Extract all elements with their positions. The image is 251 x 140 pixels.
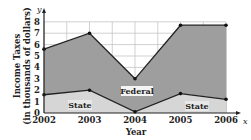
federal-label: Federal bbox=[120, 86, 153, 96]
y-tick-label: 5 bbox=[34, 51, 40, 61]
y-axis-title: Income Taxes (in thousands of dollars) bbox=[12, 7, 32, 125]
y-tick-label: 6 bbox=[34, 40, 40, 50]
state-label-left: State bbox=[68, 100, 91, 110]
y-tick-label: 7 bbox=[34, 28, 40, 38]
x-tick-label: 2006 bbox=[214, 115, 238, 125]
data-point bbox=[179, 92, 183, 96]
y-axis-title-line1: Income Taxes bbox=[12, 33, 22, 98]
y-tick-labels: 012345678 bbox=[34, 17, 40, 118]
y-axis-title-line2: (in thousands of dollars) bbox=[22, 7, 32, 125]
x-axis-letter: x bbox=[243, 117, 248, 126]
y-tick-label: 4 bbox=[34, 62, 40, 72]
y-tick-label: 3 bbox=[34, 74, 40, 84]
data-point bbox=[133, 77, 137, 81]
data-point bbox=[88, 31, 92, 35]
income-tax-area-chart: y x 012345678 20022003200420052006 Year … bbox=[0, 0, 251, 140]
y-tick-label: 2 bbox=[34, 85, 40, 95]
x-tick-label: 2003 bbox=[78, 115, 102, 125]
x-axis-title: Year bbox=[125, 127, 147, 137]
data-point bbox=[224, 23, 228, 27]
y-axis-letter: y bbox=[36, 5, 42, 14]
x-tick-label: 2005 bbox=[169, 115, 193, 125]
state-label-right: State bbox=[185, 101, 208, 111]
y-axis-arrow-icon bbox=[42, 8, 46, 13]
y-tick-label: 1 bbox=[34, 97, 40, 107]
x-tick-label: 2002 bbox=[32, 115, 56, 125]
data-point bbox=[88, 88, 92, 92]
data-point bbox=[179, 23, 183, 27]
y-tick-label: 8 bbox=[34, 17, 40, 27]
data-point bbox=[224, 98, 228, 102]
x-tick-labels: 20022003200420052006 bbox=[32, 115, 238, 125]
x-tick-label: 2004 bbox=[123, 115, 147, 125]
